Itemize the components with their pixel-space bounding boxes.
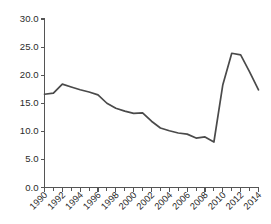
- x-tick-label-2008: 2008: [188, 190, 210, 212]
- y-tick-label-30.0: 30.0: [20, 13, 39, 24]
- x-tick-label-2004: 2004: [153, 190, 175, 212]
- x-tick-label-1994: 1994: [63, 190, 85, 212]
- x-tick-label-1992: 1992: [46, 190, 68, 212]
- series-line-1: [45, 53, 259, 142]
- x-tick-label-2010: 2010: [206, 190, 228, 212]
- y-tick-label-0.0: 0.0: [25, 182, 38, 193]
- y-tick-label-5.0: 5.0: [25, 153, 38, 164]
- x-tick-label-2012: 2012: [224, 190, 246, 212]
- x-tick-label-2000: 2000: [117, 190, 139, 212]
- chart-canvas: 0.05.010.015.020.025.030.019901992199419…: [0, 0, 271, 224]
- x-tick-label-1990: 1990: [28, 190, 50, 212]
- x-tick-label-2006: 2006: [170, 190, 192, 212]
- x-tick-label-1998: 1998: [99, 190, 121, 212]
- line-chart-figure: 0.05.010.015.020.025.030.019901992199419…: [0, 0, 271, 224]
- y-tick-label-25.0: 25.0: [20, 41, 39, 52]
- y-tick-label-20.0: 20.0: [20, 69, 39, 80]
- x-tick-label-2014: 2014: [242, 190, 264, 212]
- y-tick-label-10.0: 10.0: [20, 125, 39, 136]
- x-tick-label-1996: 1996: [81, 190, 103, 212]
- x-tick-label-2002: 2002: [135, 190, 157, 212]
- y-tick-label-15.0: 15.0: [20, 97, 39, 108]
